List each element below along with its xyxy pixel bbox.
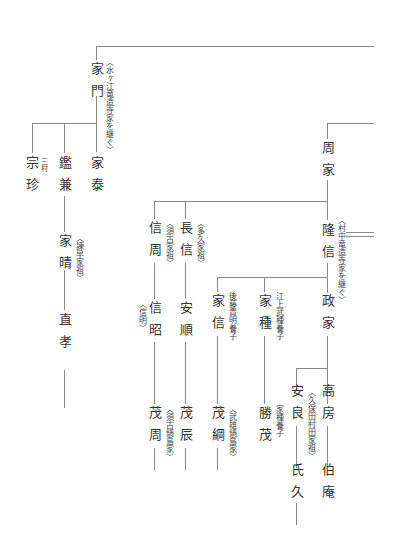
note-naganobu: 〈多久家祖〉 — [195, 219, 204, 267]
takanobu-child-line — [327, 263, 328, 293]
ietane-drop-line — [264, 277, 265, 292]
double-line-connector — [346, 232, 374, 237]
iekado-drop-line — [96, 46, 97, 60]
chikaie-children-bar — [154, 201, 327, 202]
person-ietane: 家種 — [257, 294, 271, 338]
nobuchika-drop-line — [154, 201, 155, 219]
person-yasuyoshi: 安良 — [289, 384, 303, 428]
note-shigetsuna: 〈武雄鍋島家〉 — [227, 405, 236, 461]
person-takanobu: 隆信 — [320, 223, 334, 267]
chikaie-child-line — [327, 180, 328, 220]
note-nobuaki: 〈信明〉 — [137, 300, 146, 332]
person-soucin: 宗珍 — [24, 156, 38, 200]
person-naganobu: 長信 — [178, 221, 192, 265]
soucin-drop-line — [32, 123, 33, 153]
ietane-child-line — [264, 336, 265, 404]
nobuaki-child-line — [154, 342, 155, 404]
person-hakuan: 伯庵 — [320, 463, 334, 507]
person-ujihisa: 氏久 — [289, 463, 303, 507]
top-branch-line — [96, 46, 374, 47]
note-katsushige: 家種養子 — [274, 405, 283, 437]
note-ietane: 江上武種養子 — [274, 292, 283, 340]
naganobu-child-line — [185, 263, 186, 299]
person-masaie: 政家 — [320, 294, 334, 338]
yasutoshi-child-line — [185, 342, 186, 404]
nobuchika-child-line — [154, 263, 155, 299]
person-ienobu: 家信 — [210, 294, 224, 338]
yasuyoshi-child-line — [296, 426, 297, 468]
chikaie-branch-line — [327, 123, 374, 124]
note-iehare: 〈諫早家祖〉 — [74, 234, 83, 282]
naganobu-drop-line — [185, 201, 186, 219]
person-shigechika: 茂周 — [147, 406, 161, 450]
takafusa-child-line — [327, 426, 328, 468]
person-takafusa: 高房 — [320, 384, 334, 428]
person-shigetsuna: 茂綱 — [210, 406, 224, 450]
note-iekado: 〈水ヶ江竜造寺家を継ぐ〉 — [104, 58, 113, 154]
person-iekado: 家門 — [89, 62, 103, 106]
note-takanobu: 〈村中竜造寺家を継ぐ〉 — [336, 216, 345, 304]
person-chikaie: 周家 — [320, 141, 334, 185]
kanekane-child-line — [64, 196, 65, 232]
person-iehare: 家晴 — [57, 234, 71, 278]
note-ienobu: 後藤貴明養子 — [227, 292, 236, 340]
person-nobuchika: 信周 — [147, 221, 161, 265]
chikaie-drop-line — [327, 123, 328, 139]
takanobu-children-bar — [217, 277, 327, 278]
person-ieyasu: 家泰 — [89, 156, 103, 200]
note-nobuchika: 〈須古家祖〉 — [164, 219, 173, 267]
kanekane-drop-line — [64, 123, 65, 153]
shigetsuna-child-line — [217, 448, 218, 470]
note-yasuyoshi: 〈久保田村田家祖〉 — [306, 388, 315, 460]
note-shigechika: 〈須古鍋島家〉 — [164, 405, 173, 461]
ienobu-drop-line — [217, 277, 218, 292]
person-katsushige: 勝茂 — [257, 406, 271, 450]
note-soucin: 三村 — [40, 158, 48, 172]
person-naotaka: 直孝 — [57, 313, 71, 357]
person-yasutoshi: 安順 — [178, 301, 192, 345]
ienobu-child-line — [217, 336, 218, 404]
person-shigetoki: 茂辰 — [178, 406, 192, 450]
person-nobuaki: 信昭 — [147, 301, 161, 345]
person-kanekane: 鑑兼 — [57, 156, 71, 200]
naotaka-child-line — [64, 370, 65, 408]
shigetoki-child-line — [185, 448, 186, 470]
shigechika-child-line — [154, 448, 155, 470]
masaie-children-bar — [296, 368, 327, 369]
